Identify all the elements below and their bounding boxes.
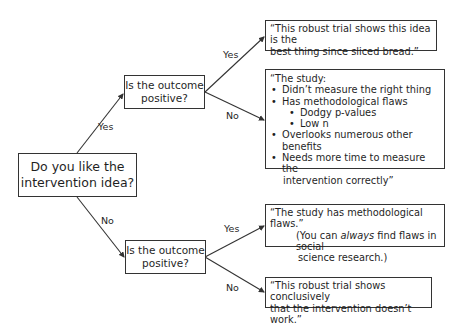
edge-label-q1-yes: Yes xyxy=(223,49,238,60)
list-item: Overlooks numerous other benefits xyxy=(270,129,440,152)
o1-line1: “This robust trial shows this idea is th… xyxy=(270,23,432,46)
outcome-question-yes-branch: Is the outcome positive? xyxy=(124,75,205,109)
root-question-line1: Do you like the xyxy=(30,159,124,175)
outcome-dislike-negative: “This robust trial shows conclusively th… xyxy=(265,277,432,308)
outcome-dislike-positive: “The study has methodological flaws.” (Y… xyxy=(265,204,445,247)
o1-line2: best thing since sliced bread.” xyxy=(270,46,432,57)
list-item: Needs more time to measure the xyxy=(270,152,440,175)
o3-line3: science research.) xyxy=(270,252,440,263)
o3-line2-emphasis: always xyxy=(341,230,375,241)
list-subitem: Low n xyxy=(270,118,440,129)
q1-line2: positive? xyxy=(141,92,188,105)
outcome-like-positive: “This robust trial shows this idea is th… xyxy=(265,20,437,51)
o2-reasons-list: Didn’t measure the right thing Has metho… xyxy=(270,84,440,174)
list-subitem: Dodgy p-values xyxy=(270,107,440,118)
root-question-line2: intervention idea? xyxy=(21,175,134,191)
list-item: Has methodological flaws xyxy=(270,96,440,107)
o2-intro: “The study: xyxy=(270,73,440,84)
edge-label-root-yes: Yes xyxy=(98,121,113,132)
o3-line2-pre: (You can xyxy=(296,230,341,241)
o4-line2: that the intervention doesn’t work.” xyxy=(270,303,427,324)
o3-line2: (You can always find flaws in social xyxy=(270,230,440,253)
list-item: Didn’t measure the right thing xyxy=(270,84,440,95)
edge-label-q2-yes: Yes xyxy=(224,223,239,234)
o3-line1: “The study has methodological flaws.” xyxy=(270,207,440,230)
o4-line1: “This robust trial shows conclusively xyxy=(270,280,427,303)
edge-label-q2-no: No xyxy=(226,282,239,293)
q2-line1: Is the outcome xyxy=(126,244,205,257)
edge-label-q1-no: No xyxy=(226,110,239,121)
outcome-question-no-branch: Is the outcome positive? xyxy=(125,240,206,274)
outcome-like-negative: “The study: Didn’t measure the right thi… xyxy=(265,69,445,169)
root-question-box: Do you like the intervention idea? xyxy=(18,153,137,197)
edge-label-root-no: No xyxy=(101,215,114,226)
q2-line2: positive? xyxy=(142,257,189,270)
q1-line1: Is the outcome xyxy=(125,79,204,92)
o2-continuation: intervention correctly” xyxy=(270,175,440,186)
